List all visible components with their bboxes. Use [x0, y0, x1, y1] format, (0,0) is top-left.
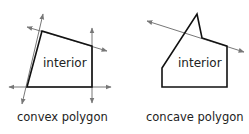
concave-caption: concave polygon	[146, 110, 244, 124]
concave-interior-label: interior	[178, 56, 222, 70]
concave-polygon	[162, 14, 227, 87]
convex-interior-label: interior	[43, 56, 87, 70]
concave-extension-line	[147, 21, 244, 52]
convex-left-side-line	[22, 14, 43, 104]
convex-caption: convex polygon	[17, 110, 108, 124]
